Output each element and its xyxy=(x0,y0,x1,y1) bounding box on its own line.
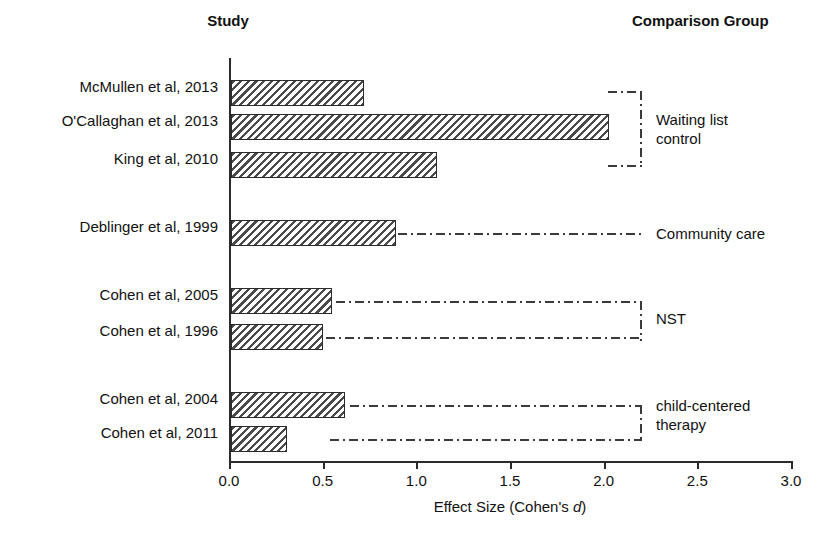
x-tick-label-5: 2.5 xyxy=(687,472,708,489)
bar-cohen-2004 xyxy=(231,392,345,418)
group-connector-waiting-list-top xyxy=(608,91,642,93)
group-bracket-nst-vertical xyxy=(640,301,642,341)
bar-cohen-1996 xyxy=(231,324,323,350)
x-tick-4 xyxy=(604,461,606,469)
bar-king-2010 xyxy=(231,152,437,178)
x-tick-label-6: 3.0 xyxy=(781,472,802,489)
x-tick-2 xyxy=(416,461,418,469)
bar-cohen-2011 xyxy=(231,426,287,452)
x-tick-label-4: 2.0 xyxy=(593,472,614,489)
group-connector-community-care xyxy=(398,233,642,235)
group-label-community-care: Community care xyxy=(656,224,765,243)
bar-ocallaghan-2013 xyxy=(231,114,609,140)
study-label-cohen-2004: Cohen et al, 2004 xyxy=(0,390,218,407)
group-connector-nst-top xyxy=(336,301,642,303)
bar-cohen-2005 xyxy=(231,288,332,314)
x-axis-title-prefix: Effect Size (Cohen's xyxy=(434,498,573,515)
group-label-child-centered-therapy: child-centered therapy xyxy=(656,396,750,434)
x-tick-label-0: 0.0 xyxy=(219,472,240,489)
study-label-deblinger-1999: Deblinger et al, 1999 xyxy=(0,218,218,235)
group-connector-nst-bottom xyxy=(326,337,642,339)
group-label-waiting-list-control: Waiting list control xyxy=(656,110,728,148)
group-connector-child-centered-top xyxy=(350,405,642,407)
x-tick-label-3: 1.5 xyxy=(500,472,521,489)
x-tick-label-1: 0.5 xyxy=(312,472,333,489)
x-tick-5 xyxy=(697,461,699,469)
group-bracket-child-centered-vertical xyxy=(640,405,642,443)
study-column-heading: Study xyxy=(168,12,288,29)
effect-size-chart-figure: Study Comparison Group McMullen et al, 2… xyxy=(0,0,837,552)
study-label-king-2010: King et al, 2010 xyxy=(0,150,218,167)
bar-mcmullen-2013 xyxy=(231,80,364,106)
bar-deblinger-1999 xyxy=(231,220,396,246)
comparison-group-column-heading: Comparison Group xyxy=(632,12,769,29)
x-axis-title-suffix: ) xyxy=(581,498,586,515)
x-tick-label-2: 1.0 xyxy=(406,472,427,489)
x-axis-title: Effect Size (Cohen's d) xyxy=(229,498,791,515)
study-label-cohen-2011: Cohen et al, 2011 xyxy=(0,424,218,441)
group-connector-child-centered-bottom xyxy=(330,439,642,441)
study-label-cohen-2005: Cohen et al, 2005 xyxy=(0,286,218,303)
group-label-nst: NST xyxy=(656,309,686,328)
group-connector-waiting-list-bottom xyxy=(608,165,642,167)
x-tick-0 xyxy=(229,461,231,469)
study-label-cohen-1996: Cohen et al, 1996 xyxy=(0,322,218,339)
study-label-mcmullen-2013: McMullen et al, 2013 xyxy=(0,78,218,95)
group-bracket-waiting-list-vertical xyxy=(640,91,642,167)
study-label-ocallaghan-2013: O'Callaghan et al, 2013 xyxy=(0,112,218,129)
x-tick-3 xyxy=(510,461,512,469)
x-tick-6 xyxy=(791,461,793,469)
x-tick-1 xyxy=(323,461,325,469)
